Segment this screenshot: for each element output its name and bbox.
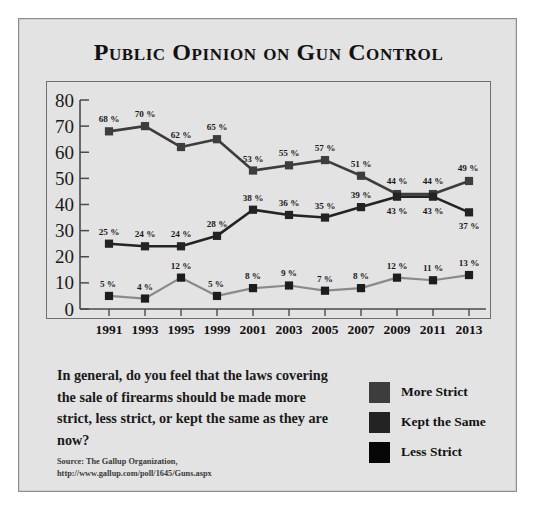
data-point-label: 57 % — [315, 143, 336, 153]
series-marker — [321, 287, 329, 295]
y-axis-tick-label: 40 — [55, 194, 74, 215]
data-point-label: 12 % — [171, 261, 192, 271]
series-marker — [141, 242, 149, 250]
data-point-label: 51 % — [351, 159, 372, 169]
y-axis-tick-label: 10 — [55, 272, 74, 293]
series-marker — [177, 242, 185, 250]
series-marker — [213, 292, 221, 300]
chart-legend: More StrictKept the SameLess Strict — [367, 377, 486, 467]
series-marker — [249, 284, 257, 292]
series-marker — [393, 193, 401, 201]
legend-item: Less Strict — [367, 437, 486, 467]
data-point-label: 38 % — [243, 193, 264, 203]
chart-point-labels: 68 %70 %62 %65 %53 %55 %57 %51 %44 %44 %… — [99, 109, 480, 291]
series-marker — [249, 206, 257, 214]
series-marker — [429, 276, 437, 284]
data-point-label: 43 % — [423, 206, 444, 216]
x-axis-tick-label: 2013 — [456, 322, 483, 337]
legend-label: Less Strict — [401, 444, 462, 460]
data-point-label: 53 % — [243, 154, 264, 164]
data-point-label: 35 % — [315, 201, 336, 211]
data-point-label: 55 % — [279, 148, 300, 158]
series-marker — [429, 193, 437, 201]
data-point-label: 11 % — [423, 263, 443, 273]
data-point-label: 43 % — [387, 206, 408, 216]
data-point-label: 49 % — [458, 163, 479, 173]
data-point-label: 8 % — [353, 271, 369, 281]
series-marker — [141, 122, 149, 130]
data-point-label: 44 % — [387, 176, 408, 186]
data-point-label: 8 % — [245, 271, 261, 281]
legend-swatch — [367, 440, 392, 465]
series-marker — [321, 156, 329, 164]
x-axis-tick-label: 1999 — [204, 322, 231, 337]
source-line-2: http://www.gallup.com/poll/1645/Guns.asp… — [57, 468, 357, 480]
series-marker — [177, 274, 185, 282]
data-point-label: 25 % — [99, 227, 120, 237]
x-axis-tick-label: 2009 — [384, 322, 411, 337]
data-point-label: 70 % — [135, 109, 156, 119]
data-point-label: 12 % — [387, 261, 408, 271]
data-point-label: 24 % — [171, 229, 192, 239]
page-title: Public Opinion on Gun Control — [19, 39, 518, 66]
chart-axes: 01020304050607080 — [55, 90, 486, 320]
series-marker — [105, 292, 113, 300]
x-axis-tick-label: 1993 — [132, 322, 159, 337]
data-point-label: 24 % — [135, 229, 156, 239]
series-marker — [321, 213, 329, 221]
line-chart: 01020304050607080 68 %70 %62 %65 %53 %55… — [46, 81, 491, 357]
series-marker — [141, 294, 149, 302]
series-line — [109, 126, 469, 194]
y-axis-tick-label: 50 — [55, 168, 74, 189]
series-marker — [465, 271, 473, 279]
data-point-label: 7 % — [317, 274, 333, 284]
y-axis-tick-label: 60 — [55, 142, 74, 163]
legend-label: More Strict — [401, 384, 468, 400]
series-marker — [357, 203, 365, 211]
data-point-label: 39 % — [351, 190, 372, 200]
series-marker — [465, 177, 473, 185]
chart-x-axis-labels: 1991199319951999200120032005200720092011… — [96, 309, 483, 337]
x-axis-tick-label: 2003 — [276, 322, 303, 337]
series-marker — [357, 172, 365, 180]
legend-swatch — [367, 380, 392, 405]
source-citation: Source: The Gallup Organization, http://… — [57, 456, 357, 480]
data-point-label: 36 % — [279, 198, 300, 208]
series-marker — [465, 208, 473, 216]
x-axis-tick-label: 1995 — [168, 322, 195, 337]
legend-item: More Strict — [367, 377, 486, 407]
series-marker — [177, 143, 185, 151]
series-marker — [285, 161, 293, 169]
y-axis-tick-label: 70 — [55, 116, 74, 137]
series-marker — [285, 211, 293, 219]
data-point-label: 9 % — [281, 268, 297, 278]
data-point-label: 28 % — [207, 219, 228, 229]
data-point-label: 37 % — [459, 221, 480, 231]
series-marker — [393, 274, 401, 282]
infographic-panel: Public Opinion on Gun Control 0102030405… — [18, 18, 517, 492]
x-axis-tick-label: 2007 — [348, 322, 375, 337]
series-marker — [105, 127, 113, 135]
series-marker — [357, 284, 365, 292]
y-axis-tick-label: 0 — [65, 299, 75, 320]
survey-question-text: In general, do you feel that the laws co… — [57, 365, 337, 451]
data-point-label: 62 % — [171, 130, 192, 140]
legend-label: Kept the Same — [401, 414, 486, 430]
source-line-1: Source: The Gallup Organization, — [57, 456, 357, 468]
series-marker — [105, 240, 113, 248]
data-point-label: 5 % — [208, 279, 224, 289]
x-axis-tick-label: 1991 — [96, 322, 123, 337]
x-axis-tick-label: 2011 — [420, 322, 447, 337]
series-marker — [213, 232, 221, 240]
series-marker — [285, 281, 293, 289]
legend-swatch — [367, 410, 392, 435]
y-axis-tick-label: 20 — [55, 246, 74, 267]
data-point-label: 44 % — [423, 176, 444, 186]
data-point-label: 5 % — [100, 279, 116, 289]
data-point-label: 4 % — [137, 282, 153, 292]
legend-item: Kept the Same — [367, 407, 486, 437]
y-axis-tick-label: 80 — [55, 90, 74, 111]
x-axis-tick-label: 2001 — [240, 322, 267, 337]
data-point-label: 65 % — [207, 122, 228, 132]
data-point-label: 13 % — [459, 258, 480, 268]
